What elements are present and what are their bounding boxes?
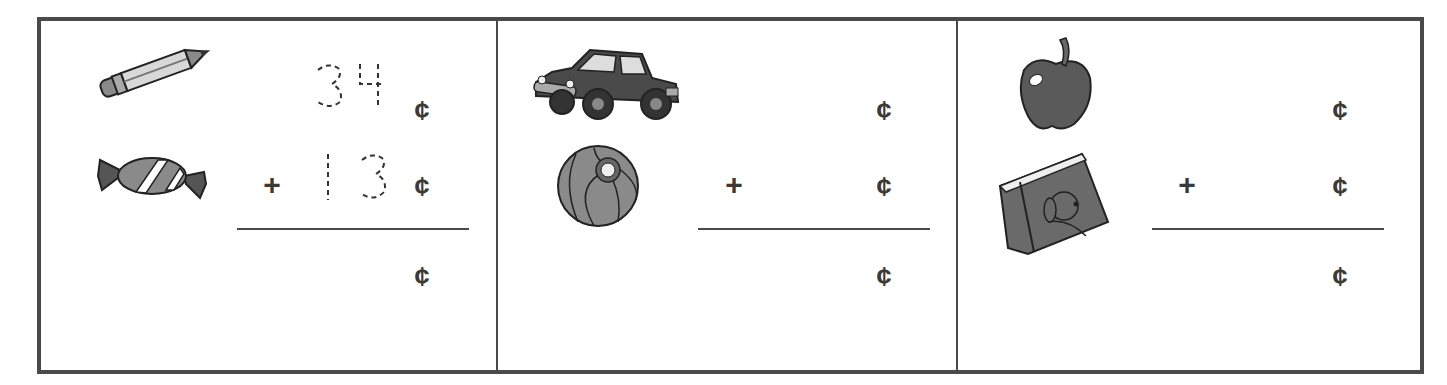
plus-sign: + [1175,172,1199,198]
apple-icon [1016,36,1098,136]
panel-divider [956,17,958,370]
cent-sign: ¢ [872,264,896,290]
ball-icon [556,144,640,228]
cent-sign: ¢ [1328,174,1352,200]
sum-line [1152,228,1384,230]
cent-sign: ¢ [410,264,434,290]
sum-line [237,228,469,230]
plus-sign: + [722,172,746,198]
cent-sign: ¢ [410,174,434,200]
cent-sign: ¢ [872,174,896,200]
panel-divider [496,17,498,370]
car-icon [532,44,680,122]
cent-sign: ¢ [872,98,896,124]
cent-sign: ¢ [1328,264,1352,290]
plus-sign: + [260,172,284,198]
book-icon [998,152,1112,258]
traced-number-34 [312,62,388,110]
pencil-icon [92,42,220,98]
cent-sign: ¢ [1328,98,1352,124]
answer-field-sum[interactable] [330,246,400,286]
cent-sign: ¢ [410,98,434,124]
sum-line [698,228,930,230]
candy-icon [96,148,208,200]
traced-number-13 [320,152,392,202]
